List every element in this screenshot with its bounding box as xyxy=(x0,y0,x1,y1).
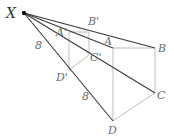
dilation-diagram: X A B C D A' B' C' D' 8 8 xyxy=(0,0,174,140)
center-point xyxy=(22,11,26,15)
label-d: D xyxy=(107,124,117,137)
segment-label-d-prime-d: 8 xyxy=(82,90,89,103)
label-c-prime: C' xyxy=(90,51,101,64)
diagram-canvas: X A B C D A' B' C' D' 8 8 xyxy=(0,0,174,140)
label-d-prime: D' xyxy=(55,71,68,84)
label-b-prime: B' xyxy=(87,15,99,28)
label-c: C xyxy=(157,89,166,102)
segment-label-xd-prime: 8 xyxy=(35,39,42,52)
label-a: A xyxy=(103,35,112,48)
label-a-prime: A' xyxy=(55,26,67,39)
square-abcd xyxy=(113,48,155,121)
label-b: B xyxy=(157,42,166,55)
ray-xd xyxy=(24,13,113,121)
label-x: X xyxy=(5,5,17,21)
